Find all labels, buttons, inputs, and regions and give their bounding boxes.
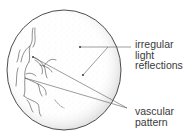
vascular-point-1 [32, 56, 34, 58]
label-irregular-light-reflections: irregular light reflections [135, 39, 183, 71]
label-line: pattern [135, 117, 174, 128]
label-line: irregular [135, 39, 183, 50]
label-vascular-pattern: vascular pattern [135, 106, 174, 127]
reflection-point-1 [79, 46, 81, 48]
fundus-disc [7, 10, 121, 130]
label-line: reflections [135, 60, 183, 71]
reflection-point-2 [82, 74, 84, 76]
label-line: vascular [135, 106, 174, 117]
